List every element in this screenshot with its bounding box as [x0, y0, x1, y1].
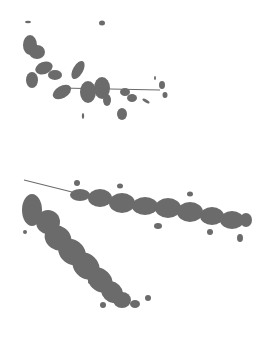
natural-image: Grayscale silhouettes of leafy branches … — [0, 0, 278, 345]
foliage-silhouette — [0, 0, 278, 345]
